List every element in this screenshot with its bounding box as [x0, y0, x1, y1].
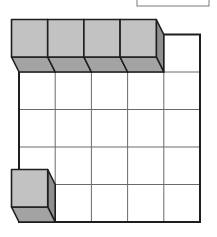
cube [12, 170, 56, 223]
cube-bottom-face [120, 57, 164, 72]
cube-front-face [48, 20, 84, 58]
cube-bottom-face [12, 207, 56, 222]
answer-box [137, 0, 209, 6]
cubes [12, 20, 164, 223]
cube-front-face [120, 20, 156, 58]
cube [120, 20, 164, 73]
cube-front-face [84, 20, 120, 58]
cube-front-face [12, 170, 48, 208]
cube-grid-diagram [0, 0, 217, 237]
cube-front-face [12, 20, 48, 58]
